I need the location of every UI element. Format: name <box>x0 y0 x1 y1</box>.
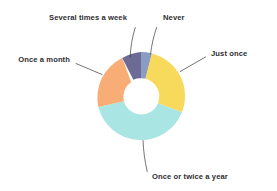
leader-line-once-or-twice-a-year <box>143 141 147 172</box>
slice-label-once-or-twice-a-year: Once or twice a year <box>152 172 228 181</box>
slice-just-once[interactable] <box>145 53 185 112</box>
leader-line-several-times-a-week <box>130 28 135 58</box>
leader-line-once-a-month <box>76 64 102 75</box>
leader-lines-group <box>76 28 206 172</box>
slice-label-several-times-a-week: Several times a week <box>49 13 128 22</box>
donut-chart-canvas: Several times a week Never Just once Onc… <box>0 0 277 191</box>
slice-label-never: Never <box>163 13 185 22</box>
slice-label-just-once: Just once <box>211 49 247 58</box>
leader-line-just-once <box>180 57 205 72</box>
donut-chart: Several times a week Never Just once Onc… <box>0 0 277 191</box>
leader-line-never <box>151 28 157 55</box>
donut-slices-group <box>97 52 185 140</box>
slice-label-once-a-month: Once a month <box>18 55 70 64</box>
